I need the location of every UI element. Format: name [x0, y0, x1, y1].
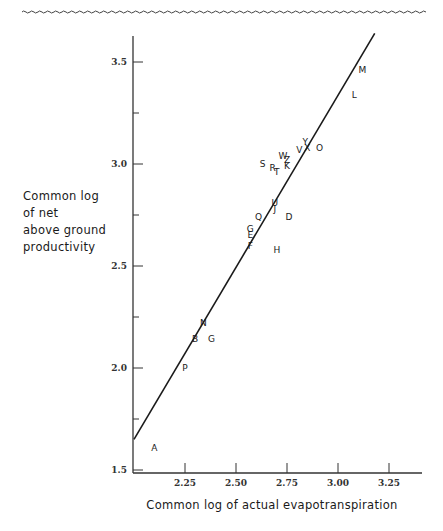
x-axis-title: Common log of actual evapotranspiration — [146, 498, 397, 512]
x-tick-label: 2.50 — [225, 478, 247, 488]
data-point-g: G — [247, 224, 254, 234]
x-tick-label: 3.25 — [378, 478, 400, 488]
x-ticks: 2.252.502.753.003.25 — [174, 463, 400, 488]
data-point-m: M — [359, 65, 367, 75]
y-ticks: 1.52.02.53.03.5 — [111, 57, 143, 475]
data-point-p: P — [182, 363, 188, 373]
data-point-n: N — [200, 318, 207, 328]
y-axis-title-line: above ground — [23, 223, 106, 237]
data-point-l: L — [352, 90, 357, 100]
data-point-u: U — [271, 198, 278, 208]
y-tick-label: 1.5 — [111, 465, 127, 475]
wavy-header-rule — [22, 11, 426, 13]
fit-line — [134, 33, 375, 439]
regression-line — [134, 33, 375, 439]
y-tick-label: 2.0 — [111, 363, 127, 373]
data-point-q: Q — [255, 212, 262, 222]
data-point-t: T — [273, 167, 280, 177]
x-tick-label: 3.00 — [327, 478, 349, 488]
x-tick-label: 2.75 — [276, 478, 298, 488]
data-point-b: B — [192, 334, 198, 344]
data-point-o: O — [316, 143, 323, 153]
data-points: APBGNFEGHQDJUSRTKZWVXYOLM — [151, 65, 366, 452]
y-tick-label: 3.0 — [111, 159, 127, 169]
scatter-chart: 1.52.02.53.03.5 2.252.502.753.003.25 APB… — [0, 0, 443, 531]
data-point-w: W — [278, 151, 287, 161]
y-axis-title: Common logof netabove groundproductivity — [23, 189, 106, 254]
data-point-g: G — [208, 334, 215, 344]
data-point-d: D — [286, 212, 293, 222]
y-tick-label: 3.5 — [111, 57, 127, 67]
x-tick-label: 2.25 — [174, 478, 196, 488]
data-point-h: H — [273, 245, 280, 255]
data-point-s: S — [260, 159, 266, 169]
y-axis-title-line: of net — [23, 206, 59, 220]
data-point-y: Y — [302, 137, 309, 147]
plot-area: 1.52.02.53.03.5 2.252.502.753.003.25 APB… — [111, 33, 422, 488]
data-point-a: A — [151, 443, 158, 453]
y-axis-title-line: productivity — [23, 240, 95, 254]
y-axis-title-line: Common log — [23, 189, 99, 203]
y-tick-label: 2.5 — [111, 261, 127, 271]
data-point-f: F — [248, 241, 253, 251]
